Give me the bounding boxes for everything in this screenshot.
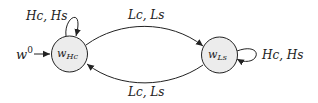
state-w-hc[interactable]: wHc bbox=[52, 36, 88, 72]
state-diagram: w0 wHc wLs Hc, Hs Lc, Ls Lc, Ls Hc, Hs bbox=[0, 0, 318, 103]
edge-label-self-ls: Hc, Hs bbox=[261, 48, 303, 62]
self-loop-w-ls bbox=[237, 49, 256, 62]
initial-label: w0 bbox=[16, 45, 33, 62]
edge-label-ls-hc: Lc, Ls bbox=[127, 85, 164, 99]
self-loop-w-hc bbox=[66, 17, 78, 36]
edge-ls-to-hc bbox=[87, 64, 203, 83]
state-w-ls[interactable]: wLs bbox=[202, 37, 238, 73]
edge-label-self-hc: Hc, Hs bbox=[25, 9, 67, 23]
edge-label-hc-ls: Lc, Ls bbox=[127, 8, 164, 22]
edge-hc-to-ls bbox=[86, 26, 203, 46]
